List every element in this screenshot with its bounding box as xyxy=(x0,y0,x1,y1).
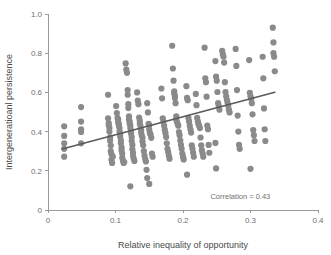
data-point xyxy=(184,172,190,178)
data-point xyxy=(61,140,67,146)
data-point xyxy=(78,104,84,110)
data-point xyxy=(260,75,266,81)
x-tick-label: 0.3 xyxy=(245,216,257,225)
data-point xyxy=(212,140,218,146)
annotation-layer: Correlation = 0.43 xyxy=(210,192,270,201)
scatter-plot-figure: 00.20.40.60.81.000.10.20.30.4 Relative i… xyxy=(0,0,331,255)
data-point xyxy=(221,60,227,66)
correlation-annotation: Correlation = 0.43 xyxy=(210,192,270,201)
data-point xyxy=(144,100,150,106)
data-point xyxy=(158,85,164,91)
data-point xyxy=(143,167,149,173)
y-axis-title: Intergeneratioanl persistence xyxy=(4,54,14,170)
data-point xyxy=(134,89,140,95)
data-point xyxy=(61,154,67,160)
data-point xyxy=(235,112,241,118)
data-point xyxy=(235,129,241,135)
data-point xyxy=(131,158,137,164)
x-tick-label: 0.2 xyxy=(177,216,189,225)
data-point xyxy=(247,166,253,172)
data-point xyxy=(144,175,150,181)
data-point xyxy=(251,132,257,138)
data-point xyxy=(170,65,176,71)
data-point xyxy=(206,150,212,156)
x-tick-label: 0 xyxy=(46,216,51,225)
data-point xyxy=(262,126,268,132)
data-point xyxy=(106,129,112,135)
data-point xyxy=(170,78,176,84)
data-point xyxy=(226,109,232,115)
data-point xyxy=(175,123,181,129)
data-point xyxy=(197,134,203,140)
data-point xyxy=(159,95,165,101)
data-point xyxy=(124,70,130,76)
data-point xyxy=(78,129,84,135)
data-point xyxy=(105,92,111,98)
data-point xyxy=(135,101,141,107)
data-point xyxy=(169,43,175,49)
data-point xyxy=(270,39,276,45)
data-point xyxy=(213,165,219,171)
y-tick-label: 1.0 xyxy=(31,10,43,19)
data-point xyxy=(123,60,129,66)
data-point xyxy=(145,109,151,115)
data-point xyxy=(164,140,170,146)
data-point xyxy=(191,154,197,160)
data-point xyxy=(109,160,115,166)
data-point xyxy=(163,134,169,140)
data-point xyxy=(246,57,252,63)
data-point xyxy=(61,123,67,129)
data-point xyxy=(108,142,114,148)
data-point xyxy=(148,135,154,141)
data-point xyxy=(262,138,268,144)
y-tick-label: 0.4 xyxy=(31,128,43,137)
data-point xyxy=(150,154,156,160)
data-point xyxy=(233,63,239,69)
data-point xyxy=(249,111,255,117)
data-point xyxy=(205,126,211,132)
data-point xyxy=(113,103,119,109)
data-point xyxy=(260,54,266,60)
data-point xyxy=(166,156,172,162)
data-point xyxy=(188,129,194,135)
data-point xyxy=(172,95,178,101)
y-tick-label: 0.6 xyxy=(31,88,43,97)
data-point xyxy=(183,83,189,89)
data-point xyxy=(261,105,267,111)
data-point xyxy=(212,58,218,64)
data-point xyxy=(125,92,131,98)
chart-canvas: 00.20.40.60.81.000.10.20.30.4 Relative i… xyxy=(0,0,331,255)
data-point xyxy=(222,79,228,85)
data-point xyxy=(200,154,206,160)
data-point xyxy=(214,89,220,95)
x-axis-title: Relative inequality of opportunity xyxy=(118,240,249,250)
x-tick-label: 0.4 xyxy=(312,216,324,225)
data-point xyxy=(270,25,276,31)
x-tick-label: 0.1 xyxy=(110,216,122,225)
data-point xyxy=(271,54,277,60)
y-tick-label: 0.2 xyxy=(31,167,43,176)
data-point xyxy=(202,45,208,51)
data-point xyxy=(140,142,146,148)
y-tick-label: 0 xyxy=(38,206,43,215)
data-point xyxy=(177,132,183,138)
data-point xyxy=(197,125,203,131)
data-point xyxy=(193,102,199,108)
data-point xyxy=(233,46,239,52)
data-point xyxy=(204,94,210,100)
data-point xyxy=(220,54,226,60)
data-point xyxy=(193,91,199,97)
data-point xyxy=(110,154,116,160)
data-point xyxy=(203,79,209,85)
data-point xyxy=(237,146,243,152)
data-point xyxy=(185,97,191,103)
data-point xyxy=(214,78,220,84)
data-point xyxy=(143,158,149,164)
data-point xyxy=(272,68,278,74)
data-point xyxy=(125,105,131,111)
y-tick-label: 0.8 xyxy=(31,49,43,58)
data-point xyxy=(206,142,212,148)
data-point xyxy=(78,119,84,125)
data-point xyxy=(61,133,67,139)
data-point xyxy=(181,156,187,162)
